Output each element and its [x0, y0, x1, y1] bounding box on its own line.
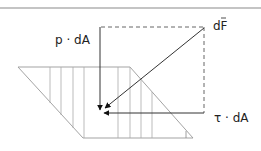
- total-force-arrow: [105, 28, 204, 108]
- total-force-label: dF: [213, 19, 228, 33]
- pressure-force-label: p · dA: [55, 33, 91, 47]
- surface-element: [18, 67, 193, 138]
- hatch-lines: [50, 67, 152, 138]
- shear-force-label: τ · dA: [214, 111, 249, 125]
- force-diagram: p · dA dF τ · dA: [0, 0, 261, 151]
